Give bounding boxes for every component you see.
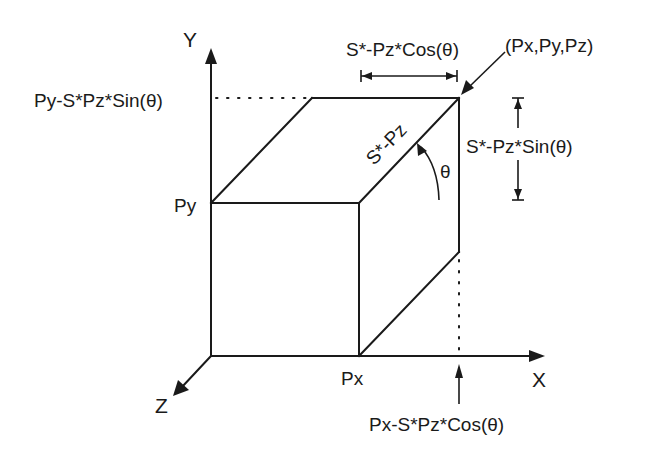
z-axis [181,356,211,388]
point-pointer-line [468,52,505,88]
receding-edge-bottom-right [359,252,459,356]
point-pointer [461,52,505,95]
point-label: (Px,Py,Pz) [505,35,593,56]
px-label: Px [341,368,364,389]
px-pointer [455,364,463,404]
cos-dimension-arrow-right-icon [446,72,456,80]
px-pointer-arrowhead-icon [455,364,463,378]
receding-edge-top-left [211,98,312,203]
z-axis-label: Z [155,394,168,417]
vertical-offset-label: S*-Pz*Sin(θ) [466,136,573,157]
x-axis-arrowhead-icon [529,350,545,362]
y-axis-arrowhead-icon [205,48,217,64]
py-projected-label: Py-S*Pz*Sin(θ) [34,90,163,111]
y-axis-label: Y [183,28,197,51]
cube [211,98,459,356]
angle-theta [417,143,439,200]
horizontal-offset-label: S*-Pz*Cos(θ) [346,39,459,60]
point-pointer-arrowhead-icon [461,80,474,95]
oblique-projection-diagram: Y X Z Py-S*Pz*Sin(θ) Py Px Px-S*Pz*Cos(θ… [0,0,647,462]
depth-length-label: S*-Pz [362,119,411,169]
sin-dimension-arrow-up-icon [514,99,522,109]
horizontal-dimension [361,70,457,82]
x-axis-label: X [532,368,546,391]
theta-label: θ [440,161,451,182]
cos-dimension-arrow-left-icon [362,72,372,80]
angle-arc [421,147,439,200]
py-label: Py [174,195,197,216]
sin-dimension-arrow-down-icon [514,189,522,199]
px-projected-label: Px-S*Pz*Cos(θ) [369,414,504,435]
